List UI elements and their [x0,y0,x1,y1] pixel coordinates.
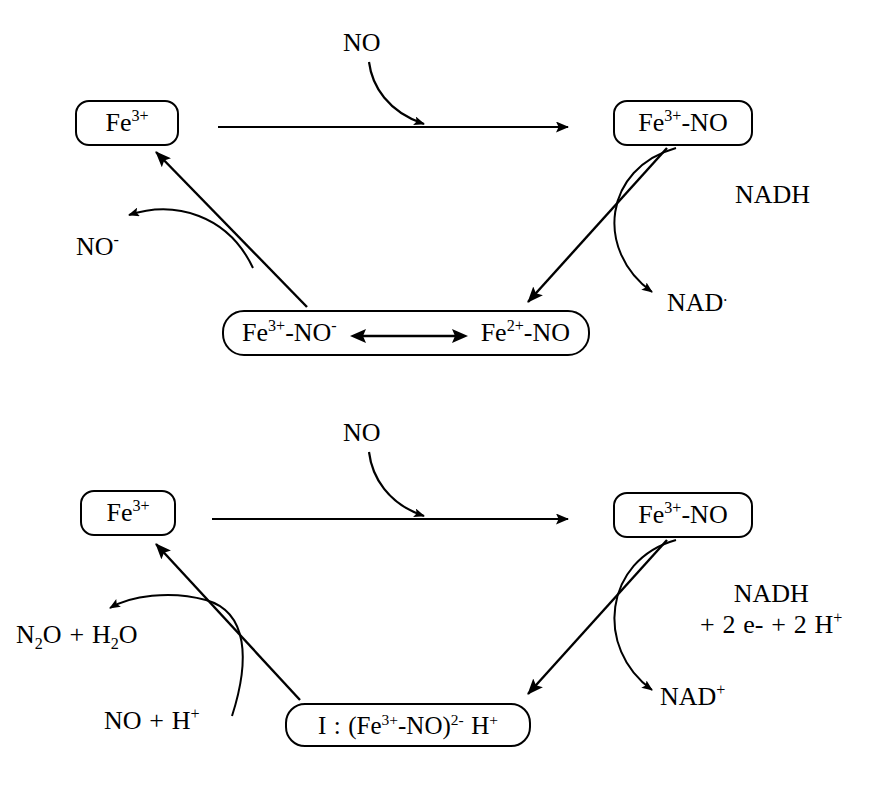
bottom-product-loop-curve [110,595,243,716]
node-top-ferric-label: Fe3+ [105,110,148,136]
node-bottom-ferric-nitrosyl: Fe3+-NO [613,492,753,538]
label-top-nadh-in: NADH [735,180,810,210]
top-no-entry-curve [369,62,424,124]
node-top-ferric: Fe3+ [75,100,179,146]
label-bottom-no-in: NO [343,418,381,448]
node-top-intermediate-right-label: Fe2+-NO [481,320,570,346]
reaction-scheme-figure: Fe3+ Fe3+-NO Fe3+-NO- Fe2+-NO NO NO- NAD… [0,0,880,785]
label-top-nad-out: NAD. [667,288,727,318]
label-bottom-cofactor-in: NADH +2e-+2H+ [700,578,842,640]
node-top-ferric-nitrosyl-label: Fe3+-NO [638,110,727,136]
node-bottom-intermediate-label: I:(Fe3+-NO)2-H+ [318,713,498,738]
bottom-right-diagonal-arrow [528,540,667,694]
label-top-no-minus-out: NO- [76,232,119,262]
node-bottom-ferric: Fe3+ [80,490,176,536]
label-bottom-nad-out: NAD+ [660,682,725,712]
label-bottom-nadh-line1: NADH [700,578,842,609]
bottom-nadh-curve [614,540,676,690]
label-bottom-reactant-in: NO+H+ [104,706,200,736]
node-bottom-intermediate: I:(Fe3+-NO)2-H+ [285,703,531,747]
top-left-diagonal-arrow [156,152,307,307]
node-top-intermediate-left-label: Fe3+-NO- [242,320,337,346]
node-top-ferric-nitrosyl: Fe3+-NO [613,100,753,146]
label-top-no-in: NO [343,28,381,58]
node-bottom-ferric-label: Fe3+ [106,500,149,526]
node-bottom-ferric-nitrosyl-label: Fe3+-NO [638,502,727,528]
resonance-row: Fe3+-NO- Fe2+-NO [224,320,588,346]
label-bottom-product-out: N2O+H2O [16,620,138,650]
resonance-double-arrow-icon [350,324,468,342]
label-bottom-nadh-line2: +2e-+2H+ [700,609,842,640]
top-nadh-curve [614,148,676,292]
bottom-left-diagonal-arrow [156,544,300,700]
bottom-no-entry-curve [369,452,424,516]
node-top-intermediate-resonance: Fe3+-NO- Fe2+-NO [222,310,590,356]
top-right-diagonal-arrow [528,148,667,302]
top-no-minus-curve [129,209,253,268]
